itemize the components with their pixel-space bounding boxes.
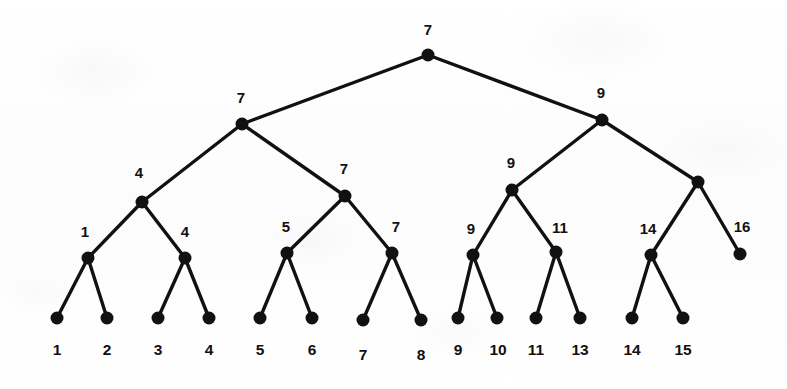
tree-internal-node[interactable]	[236, 118, 249, 131]
tree-leaf-node[interactable]	[530, 312, 543, 325]
tree-internal-node[interactable]	[136, 196, 149, 209]
leaf-index-label: 8	[417, 347, 426, 363]
tree-edge	[536, 252, 556, 318]
node-weight-label: 7	[237, 90, 245, 105]
node-weight-label: 9	[597, 85, 605, 100]
tree-internal-node[interactable]	[386, 247, 399, 260]
leaf-index-label: 11	[528, 342, 544, 358]
node-weight-label: 9	[467, 221, 475, 236]
tree-internal-node[interactable]	[692, 176, 705, 189]
leaf-index-label: 6	[308, 342, 317, 358]
tree-edge	[512, 120, 602, 190]
tree-graphics	[0, 0, 787, 389]
tree-leaf-node[interactable]	[203, 312, 216, 325]
tree-leaf-node[interactable]	[254, 312, 267, 325]
node-weight-label: 1	[81, 224, 89, 239]
tree-edge	[556, 252, 580, 318]
tree-edge	[242, 124, 345, 196]
tree-leaf-node[interactable]	[491, 312, 504, 325]
tree-internal-node[interactable]	[596, 114, 609, 127]
tree-edge	[428, 55, 602, 120]
tree-leaf-node[interactable]	[734, 248, 747, 261]
tree-leaf-node[interactable]	[357, 314, 370, 327]
tree-edge	[392, 253, 421, 320]
tree-edge	[473, 190, 512, 255]
tree-edge	[142, 202, 185, 258]
tree-edge	[57, 258, 88, 318]
tree-internal-node[interactable]	[506, 184, 519, 197]
tree-internal-node[interactable]	[339, 190, 352, 203]
tree-leaf-node[interactable]	[51, 312, 64, 325]
leaf-index-label: 10	[489, 342, 506, 358]
leaf-index-label: 7	[359, 347, 368, 363]
leaf-index-label: 3	[154, 342, 163, 358]
tree-internal-node[interactable]	[179, 252, 192, 265]
node-weight-label: 11	[552, 220, 568, 235]
edge-layer	[57, 55, 740, 320]
node-weight-label: 4	[181, 224, 189, 239]
tree-edge	[473, 255, 497, 318]
tree-edge	[602, 120, 698, 182]
leaf-index-label: 15	[674, 342, 691, 358]
tree-edge	[88, 258, 107, 318]
node-weight-label: 7	[340, 161, 348, 176]
node-weight-label: 7	[424, 22, 432, 37]
node-weight-label: 9	[507, 155, 515, 170]
node-weight-label: 14	[640, 221, 657, 236]
tree-leaf-node[interactable]	[574, 312, 587, 325]
tree-leaf-node[interactable]	[101, 312, 114, 325]
tree-edge	[88, 202, 142, 258]
tree-internal-node[interactable]	[82, 252, 95, 265]
tree-leaf-node[interactable]	[306, 312, 319, 325]
tree-edge	[185, 258, 209, 318]
tree-edge	[651, 182, 698, 255]
tree-diagram-figure: 779479145791114161234567891011131415	[0, 0, 787, 389]
leaf-index-label: 4	[205, 342, 214, 358]
tree-leaf-node[interactable]	[626, 312, 639, 325]
leaf-index-label: 13	[571, 342, 588, 358]
tree-leaf-node[interactable]	[452, 312, 465, 325]
tree-edge	[142, 124, 242, 202]
tree-edge	[158, 258, 185, 318]
tree-internal-node[interactable]	[645, 249, 658, 262]
tree-internal-node[interactable]	[281, 247, 294, 260]
tree-edge	[632, 255, 651, 318]
tree-edge	[512, 190, 556, 252]
tree-edge	[651, 255, 683, 318]
tree-edge	[458, 255, 473, 318]
tree-edge	[345, 196, 392, 253]
tree-edge	[260, 253, 287, 318]
leaf-index-label: 5	[256, 342, 265, 358]
tree-internal-node[interactable]	[422, 49, 435, 62]
leaf-index-label: 9	[454, 342, 463, 358]
tree-edge	[242, 55, 428, 124]
leaf-index-label: 14	[623, 342, 640, 358]
tree-leaf-node[interactable]	[677, 312, 690, 325]
node-weight-label: 7	[392, 219, 400, 234]
node-weight-label: 5	[282, 219, 290, 234]
node-weight-label: 16	[734, 219, 751, 234]
node-weight-label: 4	[135, 165, 143, 180]
leaf-index-label: 2	[103, 342, 112, 358]
tree-leaf-node[interactable]	[415, 314, 428, 327]
tree-edge	[287, 253, 312, 318]
leaf-index-label: 1	[53, 342, 62, 358]
tree-leaf-node[interactable]	[152, 312, 165, 325]
tree-edge	[287, 196, 345, 253]
tree-edge	[363, 253, 392, 320]
tree-internal-node[interactable]	[467, 249, 480, 262]
tree-internal-node[interactable]	[550, 246, 563, 259]
